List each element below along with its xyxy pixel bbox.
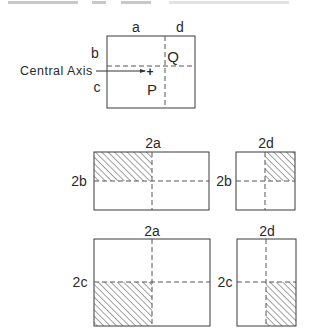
label-2c-bottom-left: 2c — [73, 274, 88, 290]
hatched-quadrant-bottom-left — [94, 282, 152, 326]
label-2b-middle-left: 2b — [71, 173, 87, 189]
label-2d-bottom: 2d — [259, 223, 275, 239]
bottom-left-diagram: 2a 2c — [73, 223, 210, 326]
label-Q: Q — [167, 48, 179, 65]
pole-bending-diagram: a d b c Central Axis + P Q 2a 2b 2d 2b 2… — [0, 0, 311, 334]
hatched-quadrant-top-right — [265, 152, 295, 181]
hatched-quadrant-bottom-right — [266, 282, 296, 326]
label-2b-middle-right: 2b — [216, 173, 232, 189]
label-b: b — [91, 45, 99, 61]
bottom-right-diagram: 2d 2c — [218, 223, 296, 326]
label-2c-bottom-right: 2c — [218, 274, 233, 290]
label-2d-middle: 2d — [258, 135, 274, 151]
label-d: d — [176, 19, 184, 35]
hatched-quadrant-top-left — [94, 152, 152, 181]
label-2a-bottom: 2a — [144, 223, 160, 239]
middle-left-diagram: 2a 2b — [71, 135, 209, 210]
label-a: a — [132, 19, 140, 35]
label-P: P — [147, 81, 157, 98]
top-diagram: a d b c Central Axis + P Q — [20, 19, 195, 108]
label-central-axis: Central Axis — [20, 64, 93, 78]
middle-right-diagram: 2d 2b — [216, 135, 295, 210]
centroid-plus-marker: + — [146, 65, 153, 79]
label-2a-middle: 2a — [145, 135, 161, 151]
label-c: c — [94, 79, 101, 95]
